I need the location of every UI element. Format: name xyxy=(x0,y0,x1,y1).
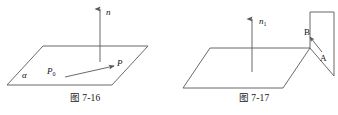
caption-figure-7-16: 图 7-16 xyxy=(0,93,170,104)
label-normal-vector-n1-base: n xyxy=(259,16,264,26)
vertical-plane-outline xyxy=(310,12,334,76)
label-point-p: P xyxy=(117,59,123,68)
vector-p0-to-p-arrow xyxy=(65,66,114,77)
label-point-p0-subscript: 0 xyxy=(53,71,56,77)
label-point-p0-base: P xyxy=(47,66,53,76)
caption-figure-7-17: 图 7-17 xyxy=(170,93,338,104)
label-plane-alpha: α xyxy=(22,71,27,80)
plane-alpha-outline xyxy=(7,46,148,85)
horizontal-plane-outline xyxy=(183,48,310,88)
label-normal-vector-n1: n1 xyxy=(259,17,267,27)
figure-7-17: n1 B A 图 7-17 xyxy=(170,0,338,115)
label-point-p0: P0 xyxy=(47,67,56,77)
label-normal-vector-n1-subscript: 1 xyxy=(264,21,267,27)
label-point-b: B xyxy=(304,28,310,37)
label-normal-vector-n: n xyxy=(106,8,111,17)
figure-sheet: n α P0 P 图 7-16 n1 xyxy=(0,0,338,115)
figure-7-16: n α P0 P 图 7-16 xyxy=(0,0,170,115)
label-point-a: A xyxy=(320,54,327,63)
